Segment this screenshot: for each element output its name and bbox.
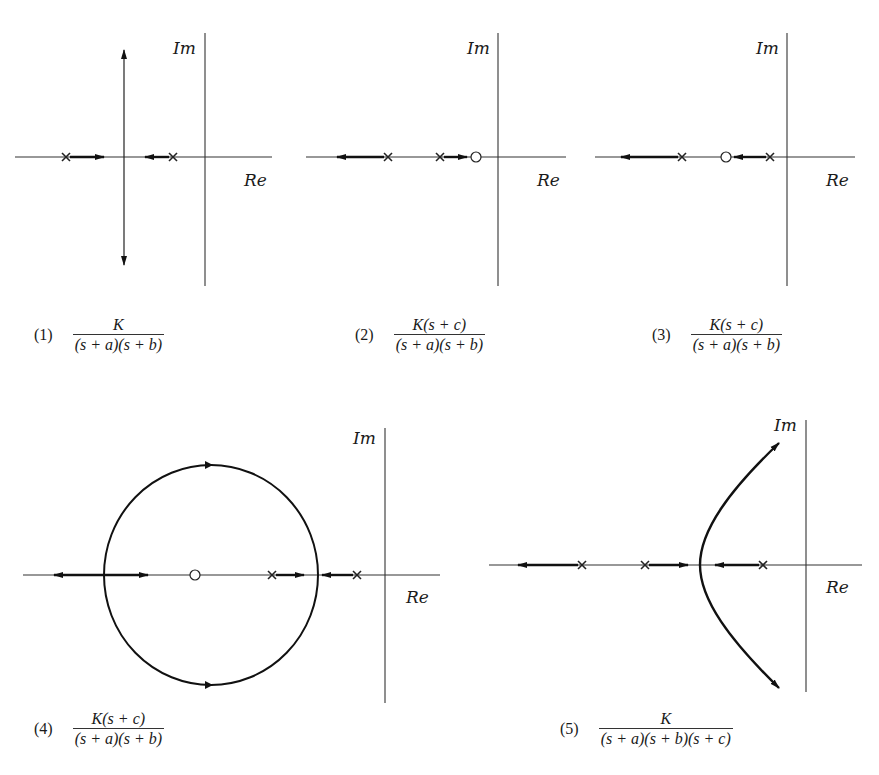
panel-1-root-locus: Im Re (15, 33, 272, 286)
panel-number: (5) (560, 720, 579, 738)
caption-panel-2: (2) K(s + c) (s + a)(s + b) (355, 315, 485, 354)
denominator: (s + a)(s + b) (691, 334, 782, 354)
real-axis-label: Re (536, 170, 560, 190)
real-axis-label: Re (243, 170, 267, 190)
transfer-function: K(s + c) (s + a)(s + b) (73, 709, 164, 748)
caption-panel-4: (4) K(s + c) (s + a)(s + b) (34, 709, 164, 748)
caption-panel-1: (1) K (s + a)(s + b) (34, 315, 164, 354)
transfer-function: K (s + a)(s + b) (73, 315, 164, 354)
numerator: K (111, 315, 126, 334)
transfer-function: K(s + c) (s + a)(s + b) (691, 315, 782, 354)
zero-o-icon (190, 570, 200, 580)
real-axis-label: Re (405, 587, 429, 607)
transfer-function: K (s + a)(s + b)(s + c) (599, 709, 733, 748)
panel-number: (3) (652, 326, 671, 344)
denominator: (s + a)(s + b) (394, 334, 485, 354)
panel-3-root-locus: Im Re (595, 33, 855, 286)
zero-o-icon (471, 152, 481, 162)
denominator: (s + a)(s + b) (73, 728, 164, 748)
zero-o-icon (721, 152, 731, 162)
numerator: K(s + c) (90, 709, 147, 728)
locus-upper-branch (700, 443, 779, 565)
root-locus-figure: Im Re Im Re Im Re Im Re (0, 0, 879, 775)
locus-lower-branch (700, 565, 779, 688)
imag-axis-label: Im (755, 38, 779, 58)
denominator: (s + a)(s + b) (73, 334, 164, 354)
panel-4-root-locus: Im Re (23, 428, 440, 703)
real-axis-label: Re (825, 577, 849, 597)
imag-axis-label: Im (466, 38, 490, 58)
panel-number: (1) (34, 326, 53, 344)
imag-axis-label: Im (773, 415, 797, 435)
arrow-top-icon (205, 461, 213, 469)
numerator: K(s + c) (708, 315, 765, 334)
numerator: K (658, 709, 673, 728)
panel-number: (4) (34, 720, 53, 738)
caption-panel-3: (3) K(s + c) (s + a)(s + b) (652, 315, 782, 354)
imag-axis-label: Im (352, 428, 376, 448)
imag-axis-label: Im (172, 38, 196, 58)
panel-2-root-locus: Im Re (306, 33, 566, 286)
arrow-bottom-icon (205, 681, 213, 689)
panel-5-root-locus: Im Re (489, 415, 862, 692)
denominator: (s + a)(s + b)(s + c) (599, 728, 733, 748)
caption-panel-5: (5) K (s + a)(s + b)(s + c) (560, 709, 733, 748)
panel-number: (2) (355, 326, 374, 344)
transfer-function: K(s + c) (s + a)(s + b) (394, 315, 485, 354)
real-axis-label: Re (825, 170, 849, 190)
numerator: K(s + c) (411, 315, 468, 334)
